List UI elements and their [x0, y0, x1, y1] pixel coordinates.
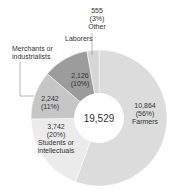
merchants-name-label-2: industrialists [12, 53, 51, 60]
farmers-value-label: 10,864 [134, 102, 156, 109]
laborers-percent-label: (10%) [71, 80, 90, 88]
other-percent-label: (3%) [90, 15, 105, 23]
farmers-name-label: Farmers [132, 118, 159, 125]
other-value-label: 555 [91, 7, 103, 14]
students-value-label: 3,742 [47, 123, 65, 130]
donut-chart: 19,529 10,864 (56%) Farmers 3,742 (20%) … [0, 0, 175, 193]
farmers-percent-label: (56%) [136, 110, 155, 118]
merchants-name-label-1: Merchants or [12, 45, 54, 52]
students-percent-label: (20%) [47, 131, 66, 139]
other-name-label: Other [88, 23, 106, 30]
merchants-leader-line [20, 62, 34, 96]
students-name-label-1: Students or [38, 139, 74, 146]
merchants-value-label: 2,242 [41, 95, 59, 102]
laborers-value-label: 2,126 [71, 72, 89, 79]
total-label: 19,529 [84, 113, 115, 124]
laborers-name-label: Laborers [65, 35, 93, 42]
merchants-percent-label: (11%) [41, 103, 59, 111]
students-name-label-2: intellectuals [38, 147, 75, 154]
